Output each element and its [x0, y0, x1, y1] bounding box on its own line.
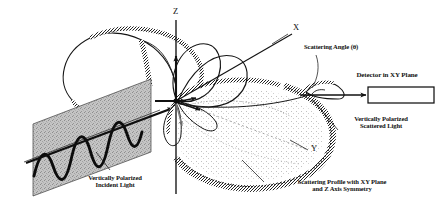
origin-point	[173, 98, 178, 103]
scattered-light-label: Vertically Polarized Scattered Light	[328, 115, 434, 130]
axis-label-x: X	[293, 22, 299, 32]
axis-label-y: Y	[311, 143, 317, 153]
scattering-diagram: Z X Y Scattering Angle (θ) Detector in X…	[0, 0, 442, 212]
main-scattering-lobe	[168, 80, 333, 189]
scattering-angle-label: Scattering Angle (θ)	[304, 43, 358, 50]
detector-label: Detector in XY Plane	[341, 72, 433, 80]
axis-label-z: Z	[173, 6, 178, 16]
detector-rectangle[interactable]	[368, 87, 434, 103]
scattering-profile-label: Scattering Profile with XY Plane and Z A…	[266, 178, 418, 193]
leader-x-axis	[272, 34, 288, 44]
incident-light-label: Vertically Polarized Incident Light	[62, 174, 168, 189]
